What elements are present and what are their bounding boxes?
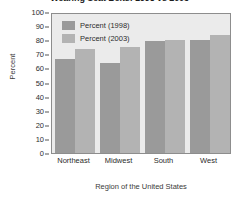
bar[interactable] (55, 59, 75, 153)
y-tick-mark (45, 97, 49, 98)
y-tick-mark (45, 41, 49, 42)
y-tick-label: 80 (36, 37, 44, 45)
bar-group (100, 14, 140, 153)
bar[interactable] (120, 47, 140, 153)
bar[interactable] (145, 41, 165, 153)
y-tick-label: 10 (36, 136, 44, 144)
y-tick-mark (45, 83, 49, 84)
y-tick-label: 70 (36, 51, 44, 59)
bar-chart-figure: Wearing Seat Belts: 1998 vs 2003 Percent… (0, 0, 239, 204)
y-tick-mark (45, 154, 49, 155)
y-tick-label: 0 (40, 150, 44, 158)
bar[interactable] (165, 40, 185, 153)
y-tick-label: 60 (36, 65, 44, 73)
y-tick-label: 90 (36, 23, 44, 31)
y-tick-mark (45, 55, 49, 56)
bar-group (55, 14, 95, 153)
y-tick-label: 40 (36, 94, 44, 102)
x-axis-tick-labels: NortheastMidwestSouthWest (51, 156, 231, 170)
y-tick-mark (45, 13, 49, 14)
bar[interactable] (210, 35, 230, 153)
y-tick-label: 30 (36, 108, 44, 116)
y-tick-label: 20 (36, 122, 44, 130)
y-tick-label: 100 (31, 9, 44, 17)
y-tick-label: 50 (36, 80, 44, 88)
y-tick-mark (45, 27, 49, 28)
x-tick-label: South (154, 156, 174, 165)
x-axis-title: Region of the United States (51, 182, 231, 191)
bar[interactable] (100, 63, 120, 153)
x-tick-label: Midwest (105, 156, 133, 165)
bar-group (145, 14, 185, 153)
plot-area: Percent (1998)Percent (2003) (51, 13, 231, 154)
x-tick-label: Northeast (57, 156, 90, 165)
y-tick-mark (45, 139, 49, 140)
y-tick-mark (45, 69, 49, 70)
y-axis-tick-labels: 0102030405060708090100 (14, 0, 44, 204)
x-tick-label: West (200, 156, 217, 165)
y-tick-mark (45, 125, 49, 126)
bar-group (190, 14, 230, 153)
bar-series-container (52, 14, 230, 153)
bar[interactable] (190, 40, 210, 153)
bar[interactable] (75, 49, 95, 153)
y-tick-mark (45, 111, 49, 112)
